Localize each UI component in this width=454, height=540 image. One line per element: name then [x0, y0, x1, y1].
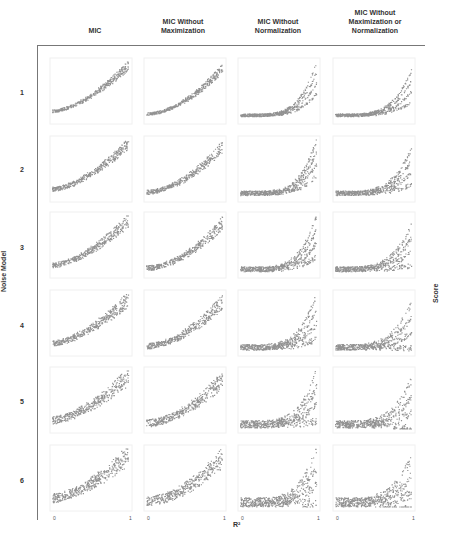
- panel-6-4: 01: [333, 445, 415, 521]
- x-tick-0: 0: [336, 515, 339, 521]
- panel-1-1: [50, 58, 132, 124]
- panel-5-2: [144, 367, 226, 433]
- panel-3-3: [238, 212, 320, 278]
- x-tick-1: 1: [412, 515, 415, 521]
- panel-2-3: [238, 136, 320, 202]
- panel-3-2: [144, 212, 226, 278]
- panel-2-2: [144, 136, 226, 202]
- panel-5-1: [50, 367, 132, 433]
- scatter-grid: 01010101: [0, 0, 454, 540]
- panel-5-3: [238, 367, 320, 433]
- x-tick-0: 0: [147, 515, 150, 521]
- panel-4-1: [50, 290, 132, 356]
- x-tick-1: 1: [223, 515, 226, 521]
- panel-4-3: [238, 290, 320, 356]
- panel-2-4: [333, 136, 415, 202]
- x-tick-0: 0: [53, 515, 56, 521]
- panel-6-1: 01: [50, 445, 132, 521]
- x-tick-1: 1: [317, 515, 320, 521]
- panel-1-3: [238, 58, 320, 124]
- panel-6-3: 01: [238, 445, 320, 521]
- panel-4-2: [144, 290, 226, 356]
- panel-4-4: [333, 290, 415, 356]
- panel-6-2: 01: [144, 445, 226, 521]
- panel-1-4: [333, 58, 415, 124]
- panel-5-4: [333, 367, 415, 433]
- panel-3-1: [50, 212, 132, 278]
- panel-3-4: [333, 212, 415, 278]
- panel-2-1: [50, 136, 132, 202]
- panel-1-2: [144, 58, 226, 124]
- x-tick-0: 0: [241, 515, 244, 521]
- x-tick-1: 1: [129, 515, 132, 521]
